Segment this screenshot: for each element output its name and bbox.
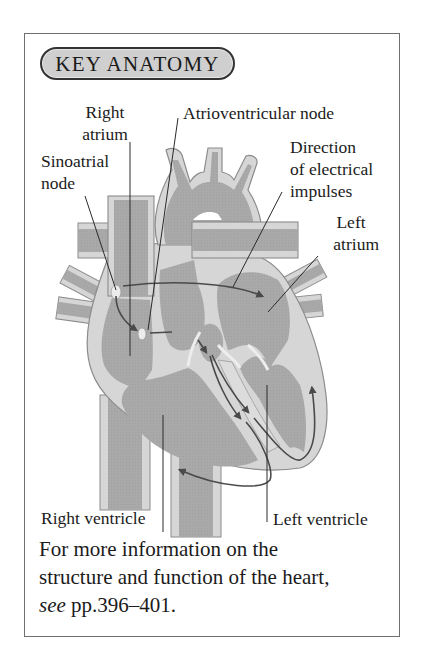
footer-see: see: [39, 593, 66, 617]
footer-line2: structure and function of the heart,: [39, 563, 389, 591]
label-left-atrium-line1: Left: [323, 211, 379, 233]
label-direction-line2: of electrical: [290, 158, 373, 180]
label-right-ventricle: Right ventricle: [41, 507, 146, 529]
atrioventricular-node: [138, 328, 146, 340]
label-direction-of-impulses: Direction of electrical impulses: [290, 136, 373, 202]
label-left-atrium: Left atrium: [323, 211, 379, 255]
label-sinoatrial-line2: node: [41, 172, 109, 194]
footer-reference-text: For more information on the structure an…: [39, 535, 389, 619]
label-direction-line3: impulses: [290, 180, 373, 202]
label-sinoatrial-node: Sinoatrial node: [41, 150, 109, 194]
label-sinoatrial-line1: Sinoatrial: [41, 150, 109, 172]
label-atrioventricular-node: Atrioventricular node: [183, 102, 334, 124]
label-left-ventricle: Left ventricle: [273, 508, 368, 530]
superior-vena-cava: [108, 196, 154, 296]
label-right-atrium-line2: atrium: [65, 123, 145, 145]
footer-line1: For more information on the: [39, 535, 389, 563]
footer-page-ref: pp.396–401.: [66, 593, 176, 617]
label-direction-line1: Direction: [290, 136, 373, 158]
label-right-atrium: Right atrium: [65, 101, 145, 145]
pulmonary-artery-right: [192, 222, 298, 258]
label-right-atrium-line1: Right: [65, 101, 145, 123]
footer-line3: see pp.396–401.: [39, 591, 389, 619]
label-left-atrium-line2: atrium: [323, 233, 379, 255]
